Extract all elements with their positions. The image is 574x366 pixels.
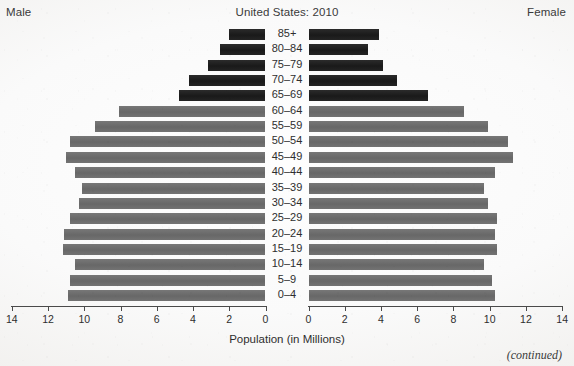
pyramid-row: 50–54 (0, 135, 574, 150)
bar-male (179, 90, 266, 101)
x-tick-female-14-label: 14 (556, 313, 568, 325)
pyramid-row: 0–4 (0, 289, 574, 304)
pyramid-row: 55–59 (0, 120, 574, 135)
x-tick-female-6-label: 6 (414, 313, 420, 325)
pyramid-row: 20–24 (0, 228, 574, 243)
x-axis-line-male (11, 306, 266, 307)
bar-male (70, 275, 266, 286)
population-pyramid-figure: Male United States: 2010 Female 85+80–84… (0, 0, 574, 366)
x-axis-line-female (308, 306, 562, 307)
bar-female (309, 183, 485, 194)
pyramid-row: 75–79 (0, 59, 574, 74)
bar-female (309, 152, 514, 163)
x-tick-female-6-mark (417, 306, 418, 311)
age-group-label: 20–24 (266, 227, 308, 240)
age-group-label: 50–54 (266, 134, 308, 147)
x-tick-male-10-label: 10 (78, 313, 90, 325)
chart-title: United States: 2010 (0, 6, 574, 18)
bar-female (309, 198, 488, 209)
bar-female (309, 136, 508, 147)
bar-male (189, 75, 265, 86)
bar-male (64, 229, 265, 240)
pyramid-row: 15–19 (0, 243, 574, 258)
x-tick-male-14-mark (12, 306, 13, 311)
x-tick-male-6-mark (157, 306, 158, 311)
age-group-label: 75–79 (266, 58, 308, 71)
pyramid-row: 40–44 (0, 166, 574, 181)
pyramid-row: 80–84 (0, 43, 574, 58)
bar-male (79, 198, 266, 209)
pyramid-row: 60–64 (0, 105, 574, 120)
age-group-label: 55–59 (266, 119, 308, 132)
pyramid-row: 65–69 (0, 89, 574, 104)
age-group-label: 85+ (266, 27, 308, 40)
x-tick-male-12-label: 12 (42, 313, 54, 325)
bar-female (309, 229, 496, 240)
bar-male (229, 29, 265, 40)
age-group-label: 5–9 (266, 273, 308, 286)
bar-male (95, 121, 265, 132)
x-tick-male-0-label: 0 (263, 313, 269, 325)
bar-female (309, 90, 429, 101)
bar-female (309, 29, 380, 40)
bar-female (309, 275, 492, 286)
pyramid-row: 35–39 (0, 182, 574, 197)
plot-area: 85+80–8475–7970–7465–6960–6455–5950–5445… (0, 26, 574, 308)
x-tick-male-6-label: 6 (154, 313, 160, 325)
bar-male (220, 44, 265, 55)
bar-female (309, 121, 488, 132)
bar-male (119, 106, 266, 117)
x-tick-male-4-label: 4 (190, 313, 196, 325)
x-tick-female-2-label: 2 (342, 313, 348, 325)
age-group-label: 15–19 (266, 242, 308, 255)
bar-male (75, 167, 265, 178)
bar-female (309, 106, 465, 117)
age-group-label: 65–69 (266, 88, 308, 101)
pyramid-row: 45–49 (0, 151, 574, 166)
pyramid-row: 85+ (0, 28, 574, 43)
bar-female (309, 259, 485, 270)
x-tick-male-8-mark (121, 306, 122, 311)
pyramid-row: 25–29 (0, 212, 574, 227)
bar-female (309, 213, 497, 224)
x-axis-caption: Population (in Millions) (0, 333, 574, 345)
bar-female (309, 244, 497, 255)
x-tick-male-2-label: 2 (226, 313, 232, 325)
female-legend-label: Female (527, 6, 566, 18)
bar-male (70, 213, 266, 224)
x-tick-male-0-mark (266, 306, 267, 311)
x-tick-male-2-mark (229, 306, 230, 311)
bar-female (309, 167, 496, 178)
age-group-label: 0–4 (266, 288, 308, 301)
x-tick-female-2-mark (345, 306, 346, 311)
age-group-label: 80–84 (266, 42, 308, 55)
pyramid-row: 5–9 (0, 274, 574, 289)
continued-note: (continued) (507, 348, 562, 363)
x-tick-female-0-mark (309, 306, 310, 311)
pyramid-row: 30–34 (0, 197, 574, 212)
x-tick-female-4-mark (381, 306, 382, 311)
x-tick-female-4-label: 4 (378, 313, 384, 325)
x-tick-female-10-mark (490, 306, 491, 311)
x-tick-male-8-label: 8 (118, 313, 124, 325)
bar-female (309, 44, 369, 55)
bar-female (309, 60, 383, 71)
age-group-label: 35–39 (266, 181, 308, 194)
x-tick-male-4-mark (193, 306, 194, 311)
pyramid-row: 10–14 (0, 258, 574, 273)
age-group-label: 70–74 (266, 73, 308, 86)
x-tick-female-10-label: 10 (484, 313, 496, 325)
x-tick-female-12-mark (526, 306, 527, 311)
x-tick-male-12-mark (48, 306, 49, 311)
bar-male (63, 244, 266, 255)
bar-male (208, 60, 266, 71)
x-tick-male-10-mark (84, 306, 85, 311)
x-tick-female-14-mark (562, 306, 563, 311)
age-group-label: 10–14 (266, 257, 308, 270)
x-tick-female-8-label: 8 (451, 313, 457, 325)
bar-male (68, 290, 266, 301)
age-group-label: 60–64 (266, 104, 308, 117)
x-tick-male-14-label: 14 (6, 313, 18, 325)
age-group-label: 40–44 (266, 165, 308, 178)
age-group-label: 25–29 (266, 211, 308, 224)
